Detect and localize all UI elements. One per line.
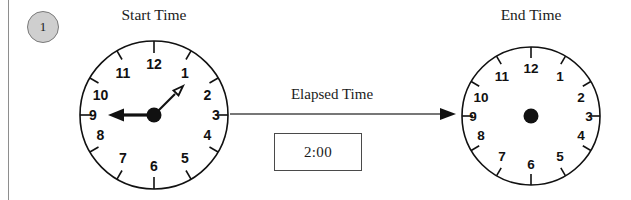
clock-numeral-9: 9 [469,109,477,124]
end-time-heading: End Time [461,6,601,24]
start-time-heading: Start Time [84,6,224,24]
elapsed-time-answer-value: 2:00 [304,144,332,161]
clock-numeral-3: 3 [212,107,220,123]
clock-numeral-3: 3 [585,109,593,124]
clock-numeral-11: 11 [116,65,131,81]
clock-numeral-5: 5 [181,150,189,166]
clock-numeral-12: 12 [146,56,162,72]
clock-numeral-8: 8 [97,127,105,143]
problem-number-label: 1 [40,19,47,35]
clock-numeral-9: 9 [89,107,97,123]
clock-numeral-4: 4 [204,127,212,143]
clock-numeral-6: 6 [527,157,535,172]
clock-numeral-2: 2 [577,90,585,105]
clock-numeral-11: 11 [495,69,510,84]
clock-numeral-4: 4 [577,128,585,143]
clock-numeral-6: 6 [150,158,158,174]
clock-numeral-7: 7 [119,150,127,166]
elapsed-time-label: Elapsed Time [262,86,402,103]
clock-numeral-5: 5 [556,149,564,164]
clock-numeral-10: 10 [93,87,109,103]
start-time-clock: 12 1 2 3 4 5 6 7 8 9 10 11 [78,39,230,191]
clock-numeral-2: 2 [204,87,212,103]
worksheet-canvas: 1 Start Time 12 1 2 3 4 5 6 [0,0,631,200]
elapsed-time-answer-box[interactable]: 2:00 [274,133,362,171]
clock-center-dot [524,109,539,124]
problem-number-badge: 1 [27,11,59,43]
elapsed-time-arrow-icon [228,103,460,125]
clock-center-dot [147,108,162,123]
clock-numeral-10: 10 [473,90,488,105]
left-margin-rule [8,0,9,200]
clock-numeral-12: 12 [523,61,538,76]
clock-numeral-1: 1 [181,65,189,81]
clock-numeral-7: 7 [498,149,506,164]
clock-numeral-8: 8 [477,128,485,143]
end-time-clock[interactable]: 12 1 2 3 4 5 6 7 8 9 10 11 [459,44,603,188]
clock-numeral-1: 1 [556,69,564,84]
